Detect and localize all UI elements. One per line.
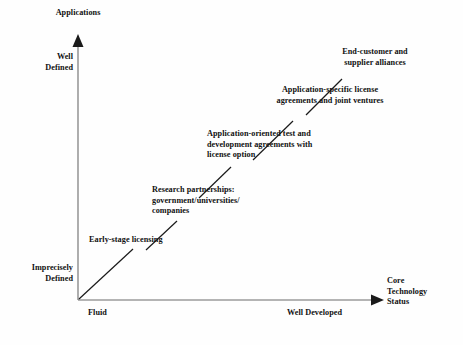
y-axis-low-label: Imprecisely Defined (4, 263, 73, 284)
y-axis-title: Applications (56, 8, 101, 19)
x-axis-arrowhead (371, 295, 384, 306)
diagram-canvas: Applications Core Technology Status Well… (0, 0, 463, 345)
y-axis-high-label: Well Defined (8, 52, 73, 73)
x-axis-low-label: Fluid (88, 308, 107, 319)
stage-label-early-stage-licensing: Early-stage licensing (89, 235, 219, 246)
diagonal-segment-1 (79, 249, 133, 299)
stage-label-end-customer-alliances: End-customer and supplier alliances (300, 47, 450, 68)
stage-label-application-oriented-test: Application-oriented test and developmen… (207, 129, 347, 161)
x-axis-title: Core Technology Status (387, 276, 427, 308)
stage-label-research-partnerships: Research partnerships: government/univer… (152, 185, 282, 217)
y-axis-arrowhead (73, 34, 84, 47)
x-axis-high-label: Well Developed (287, 308, 342, 319)
stage-label-application-specific-license: Application-specific license agreements … (250, 85, 410, 106)
